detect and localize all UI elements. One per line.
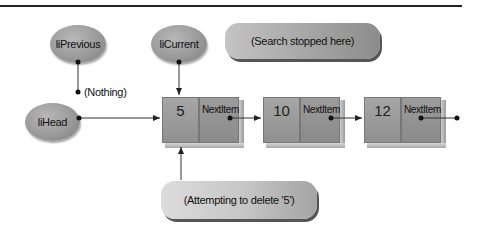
connector-lines bbox=[0, 0, 483, 235]
